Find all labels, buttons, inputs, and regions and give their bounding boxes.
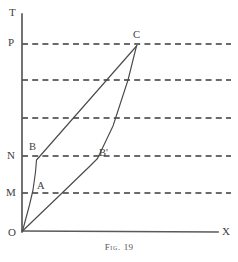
figure-caption: Fig. 19 — [0, 242, 238, 252]
point-label-B-prime: B' — [99, 148, 108, 159]
figure-19-container: T P N M O X C B B' A Fig. 19 — [0, 0, 238, 262]
curve-O-Bprime-C — [23, 46, 137, 231]
figure-drawing-canvas — [0, 0, 238, 262]
caption-number: 19 — [124, 242, 134, 252]
horizontal-axis-X — [22, 231, 218, 232]
tick-label-M: M — [6, 187, 16, 198]
point-label-B: B — [29, 142, 36, 153]
axis-label-T: T — [9, 7, 16, 18]
origin-label-O: O — [8, 227, 16, 238]
tick-label-N: N — [7, 150, 15, 161]
point-label-A: A — [37, 181, 45, 192]
curve-O-A-B-C — [23, 46, 138, 232]
caption-prefix: Fig. — [105, 242, 121, 252]
point-label-C: C — [133, 30, 140, 41]
gridline-group — [22, 44, 231, 193]
axis-label-X: X — [222, 226, 230, 237]
tick-label-P: P — [8, 37, 14, 48]
